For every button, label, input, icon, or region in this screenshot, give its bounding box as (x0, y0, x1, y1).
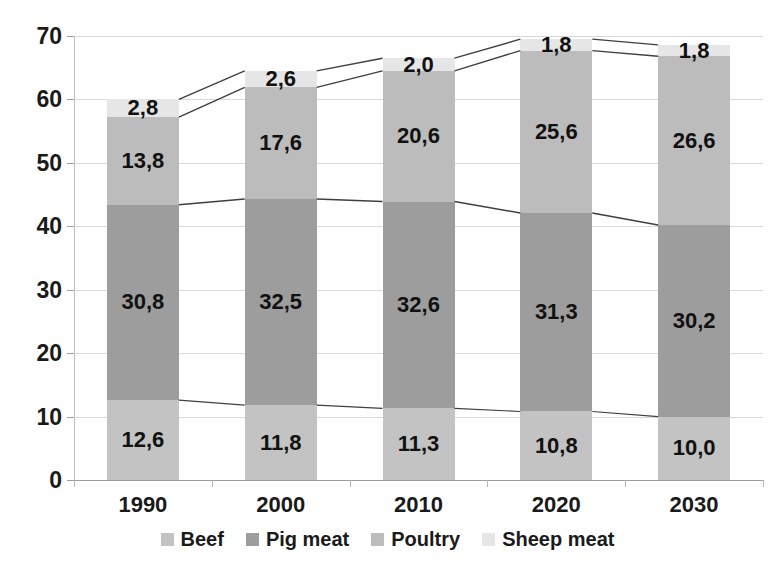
legend-label: Poultry (391, 528, 460, 551)
legend-item-beef[interactable]: Beef (161, 528, 224, 551)
legend-swatch-icon (161, 533, 174, 546)
bar-segment-beef[interactable]: 11,3 (383, 408, 455, 480)
x-axis-tick-label: 2020 (532, 492, 581, 518)
bar-segment-sheep-meat[interactable]: 2,8 (107, 99, 179, 117)
y-axis-tick-label: 20 (16, 340, 62, 367)
y-axis-tickmark (67, 417, 74, 418)
bar-segment-beef[interactable]: 12,6 (107, 400, 179, 480)
x-axis-tickmark (74, 480, 75, 487)
bar-segment-poultry[interactable]: 17,6 (245, 87, 317, 199)
data-label: 10,8 (535, 435, 578, 457)
bar-segment-beef[interactable]: 11,8 (245, 405, 317, 480)
data-label: 2,6 (265, 68, 296, 90)
x-axis-tickmark (487, 480, 488, 487)
y-axis-tickmark (67, 353, 74, 354)
legend-swatch-icon (246, 533, 259, 546)
data-label: 10,0 (673, 437, 716, 459)
bar-segment-sheep-meat[interactable]: 1,8 (520, 39, 592, 50)
y-axis-tickmark (67, 99, 74, 100)
bar-group-2020[interactable]: 10,831,325,61,8 (520, 36, 592, 480)
y-axis-tick-label: 40 (16, 213, 62, 240)
plot-area: 12,630,813,82,811,832,517,62,611,332,620… (74, 36, 763, 480)
legend-item-sheep-meat[interactable]: Sheep meat (482, 528, 614, 551)
legend-label: Sheep meat (502, 528, 614, 551)
legend-item-pig-meat[interactable]: Pig meat (246, 528, 349, 551)
y-axis-tickmark (67, 290, 74, 291)
data-label: 20,6 (397, 125, 440, 147)
chart-legend: BeefPig meatPoultrySheep meat (0, 528, 775, 551)
y-axis-labels: 010203040506070 (0, 0, 62, 583)
bar-segment-sheep-meat[interactable]: 2,0 (383, 58, 455, 71)
y-axis-tick-label: 50 (16, 149, 62, 176)
bar-segment-pig-meat[interactable]: 30,2 (658, 225, 730, 417)
bar-segment-sheep-meat[interactable]: 2,6 (245, 71, 317, 87)
y-axis-tickmark (67, 36, 74, 37)
bar-group-1990[interactable]: 12,630,813,82,8 (107, 36, 179, 480)
y-axis-tick-label: 60 (16, 86, 62, 113)
data-label: 17,6 (259, 132, 302, 154)
bar-segment-beef[interactable]: 10,8 (520, 411, 592, 480)
stacked-bar-chart: 010203040506070 12,630,813,82,811,832,51… (0, 0, 775, 583)
bar-group-2030[interactable]: 10,030,226,61,8 (658, 36, 730, 480)
data-label: 1,8 (679, 40, 710, 62)
bar-group-2010[interactable]: 11,332,620,62,0 (383, 36, 455, 480)
data-label: 11,8 (260, 432, 302, 454)
data-label: 2,8 (128, 97, 159, 119)
bar-segment-poultry[interactable]: 25,6 (520, 51, 592, 213)
bar-segment-beef[interactable]: 10,0 (658, 417, 730, 480)
data-label: 26,6 (673, 130, 716, 152)
legend-label: Pig meat (266, 528, 349, 551)
x-axis-tick-label: 2030 (670, 492, 719, 518)
bar-segment-poultry[interactable]: 13,8 (107, 117, 179, 205)
x-axis-tick-label: 2010 (394, 492, 443, 518)
bar-segment-pig-meat[interactable]: 30,8 (107, 205, 179, 400)
y-axis-tickmark (67, 226, 74, 227)
bar-segment-pig-meat[interactable]: 31,3 (520, 213, 592, 412)
y-axis-tick-label: 10 (16, 403, 62, 430)
bar-segment-poultry[interactable]: 26,6 (658, 56, 730, 225)
bar-segment-pig-meat[interactable]: 32,5 (245, 199, 317, 405)
bar-segment-pig-meat[interactable]: 32,6 (383, 202, 455, 409)
bar-group-2000[interactable]: 11,832,517,62,6 (245, 36, 317, 480)
data-label: 31,3 (535, 301, 578, 323)
legend-swatch-icon (371, 533, 384, 546)
y-axis-tick-label: 70 (16, 23, 62, 50)
x-axis-tick-label: 2000 (256, 492, 305, 518)
x-axis-baseline (74, 480, 763, 481)
data-label: 13,8 (121, 150, 164, 172)
x-axis-tickmark (350, 480, 351, 487)
legend-swatch-icon (482, 533, 495, 546)
x-axis-tickmark (625, 480, 626, 487)
y-axis-tick-label: 30 (16, 276, 62, 303)
data-label: 30,8 (121, 291, 164, 313)
y-axis-tickmark (67, 163, 74, 164)
legend-item-poultry[interactable]: Poultry (371, 528, 460, 551)
data-label: 32,6 (397, 294, 440, 316)
data-label: 1,8 (541, 34, 572, 56)
data-label: 32,5 (259, 291, 302, 313)
legend-label: Beef (181, 528, 224, 551)
bar-segment-poultry[interactable]: 20,6 (383, 71, 455, 202)
data-label: 11,3 (398, 433, 440, 455)
data-label: 2,0 (403, 54, 434, 76)
data-label: 30,2 (673, 310, 716, 332)
bar-segment-sheep-meat[interactable]: 1,8 (658, 45, 730, 56)
x-axis-tickmark (212, 480, 213, 487)
y-axis-tickmark (67, 480, 74, 481)
y-axis-tick-label: 0 (16, 467, 62, 494)
data-label: 12,6 (121, 429, 164, 451)
x-axis-tick-label: 1990 (118, 492, 167, 518)
x-axis-tickmark (763, 480, 764, 487)
data-label: 25,6 (535, 121, 578, 143)
